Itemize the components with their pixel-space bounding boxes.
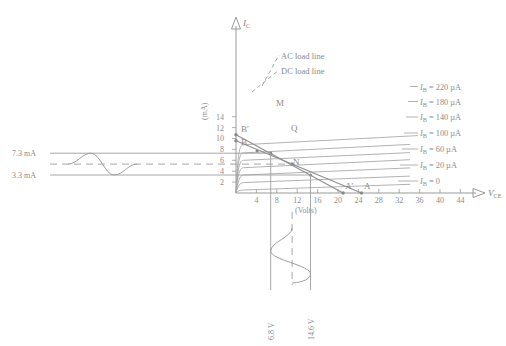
point-b-marker [234, 139, 237, 142]
ib-curve-0 [236, 184, 410, 193]
point-b-label: B [241, 137, 247, 147]
x-tick-label: 28 [375, 196, 383, 205]
figure-canvas: IC VCE (mA) (Volts) 2 4 6 8 10 12 14 [0, 0, 506, 346]
x-tick-label: 40 [436, 196, 444, 205]
ib-curve-group [236, 136, 410, 193]
voltage-left-label: 6.8 V [267, 322, 276, 340]
current-waveform-group: 7.3 mA 3.3 mA [12, 149, 311, 180]
voltage-sine-wave [271, 228, 311, 283]
load-line-intersect-marker [256, 150, 259, 153]
x-axis-unit: (Volts) [295, 206, 317, 215]
y-tick-label: 10 [216, 134, 224, 143]
ib-label-180: IB = 180 µA [419, 98, 461, 108]
point-a-prime-label: A′ [345, 181, 353, 191]
x-tick-label: 44 [456, 196, 464, 205]
current-lower-label: 3.3 mA [12, 171, 36, 180]
x-tick-label: 8 [275, 196, 279, 205]
ib-label-60: IB = 60 µA [419, 145, 457, 155]
ib-label-140: IB = 140 µA [419, 113, 461, 123]
point-m-label: M [276, 98, 284, 108]
y-tick-label: 12 [216, 124, 224, 133]
current-upper-label: 7.3 mA [12, 149, 36, 158]
ib-label-group: IB = 220 µA IB = 180 µA IB = 140 µA IB =… [398, 83, 461, 188]
x-tick-label: 24 [354, 196, 362, 205]
x-tick-label: 4 [254, 196, 258, 205]
x-tick-label: 32 [395, 196, 403, 205]
ib-label-100: IB = 100 µA [419, 129, 461, 139]
ib-curve-100 [236, 160, 410, 193]
point-q-label: Q [291, 123, 298, 133]
y-axis-unit: (mA) [200, 102, 209, 120]
point-b-prime-label: B′ [241, 124, 249, 134]
ib-label-20: IB = 20 µA [419, 161, 457, 171]
x-tick-label: 12 [293, 196, 301, 205]
ib-label-220: IB = 220 µA [419, 83, 461, 93]
dc-load-line-label: DC load line [281, 66, 325, 76]
ib-curve-220 [236, 136, 410, 193]
point-a-prime-marker [341, 191, 344, 194]
x-tick-group: 4 8 12 16 20 24 28 32 36 40 44 [254, 189, 464, 205]
y-tick-group: 2 4 6 8 10 12 14 [216, 113, 236, 187]
y-axis-title: IC [242, 18, 250, 29]
y-tick-label: 2 [220, 178, 224, 187]
dc-callout-leader [252, 70, 279, 92]
point-a-label: A [364, 181, 371, 191]
transistor-characteristics-svg: IC VCE (mA) (Volts) 2 4 6 8 10 12 14 [0, 0, 506, 346]
voltage-right-label: 14.6 V [307, 318, 316, 340]
y-tick-label: 14 [216, 113, 224, 122]
x-tick-label: 16 [314, 196, 322, 205]
ib-curve-20 [236, 176, 410, 193]
ib-label-0: IB = 0 [419, 177, 440, 187]
ac-load-line-label: AC load line [281, 51, 325, 61]
x-axis-title: VCE [488, 188, 502, 199]
point-n-label: N [293, 157, 300, 167]
point-b-prime-marker [234, 133, 237, 136]
x-tick-label: 36 [416, 196, 424, 205]
x-tick-label: 20 [334, 196, 342, 205]
point-a-marker [360, 191, 363, 194]
